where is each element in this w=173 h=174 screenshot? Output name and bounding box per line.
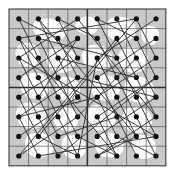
vertex-r7c3 (75, 153, 80, 158)
vertex-r2c7 (153, 55, 158, 60)
vertex-r2c1 (36, 55, 41, 60)
vertex-r3c3 (75, 75, 80, 80)
vertex-r0c3 (75, 16, 80, 21)
vertex-r5c3 (75, 114, 80, 119)
vertex-r4c0 (16, 95, 21, 100)
vertex-r5c2 (55, 114, 60, 119)
vertex-r3c4 (95, 75, 100, 80)
vertex-r2c4 (95, 55, 100, 60)
vertex-r6c4 (95, 134, 100, 139)
vertex-r2c2 (55, 55, 60, 60)
vertex-r0c1 (36, 16, 41, 21)
vertex-r4c6 (134, 95, 139, 100)
vertex-r1c7 (153, 36, 158, 41)
vertex-r3c2 (55, 75, 60, 80)
vertex-r0c6 (134, 16, 139, 21)
vertex-r2c6 (134, 55, 139, 60)
vertex-r6c0 (16, 134, 21, 139)
vertex-r7c0 (16, 153, 21, 158)
vertex-r1c5 (114, 36, 119, 41)
vertex-r7c2 (55, 153, 60, 158)
vertex-r5c4 (95, 114, 100, 119)
vertex-r3c0 (16, 75, 21, 80)
vertex-r1c0 (16, 36, 21, 41)
vertex-r5c0 (16, 114, 21, 119)
vertex-r0c4 (95, 16, 100, 21)
vertex-r0c2 (55, 16, 60, 21)
vertex-r3c1 (36, 75, 41, 80)
vertex-r1c3 (75, 36, 80, 41)
vertex-r6c1 (36, 134, 41, 139)
vertex-r1c4 (95, 36, 100, 41)
vertex-r6c2 (55, 134, 60, 139)
vertex-r7c5 (114, 153, 119, 158)
vertex-r4c3 (75, 95, 80, 100)
vertex-r4c1 (36, 95, 41, 100)
vertex-r3c7 (153, 75, 158, 80)
vertex-r5c1 (36, 114, 41, 119)
vertex-r2c0 (16, 55, 21, 60)
vertex-r7c1 (36, 153, 41, 158)
vertex-r6c5 (114, 134, 119, 139)
vertex-r4c5 (114, 95, 119, 100)
grid-graph-svg (0, 0, 173, 174)
vertex-r5c7 (153, 114, 158, 119)
vertex-r7c6 (134, 153, 139, 158)
vertex-r3c5 (114, 75, 119, 80)
vertex-r0c7 (153, 16, 158, 21)
grid-graph-figure (0, 0, 173, 174)
vertex-r3c6 (134, 75, 139, 80)
vertex-r2c3 (75, 55, 80, 60)
vertex-r6c6 (134, 134, 139, 139)
vertex-r7c4 (95, 153, 100, 158)
vertex-r7c7 (153, 153, 158, 158)
vertex-r5c6 (134, 114, 139, 119)
vertex-r6c3 (75, 134, 80, 139)
vertex-r4c2 (55, 95, 60, 100)
vertex-r1c2 (55, 36, 60, 41)
vertex-r1c6 (134, 36, 139, 41)
vertex-r4c7 (153, 95, 158, 100)
vertex-r4c4 (95, 95, 100, 100)
vertex-r6c7 (153, 134, 158, 139)
vertex-r5c5 (114, 114, 119, 119)
diagram-root (0, 0, 173, 174)
vertex-r0c5 (114, 16, 119, 21)
vertex-r1c1 (36, 36, 41, 41)
vertex-r0c0 (16, 16, 21, 21)
vertex-r2c5 (114, 55, 119, 60)
